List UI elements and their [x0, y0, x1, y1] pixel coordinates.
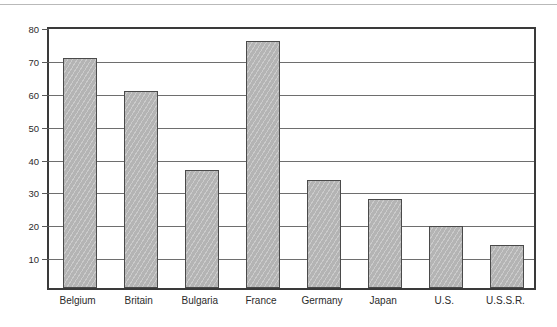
bar-germany[interactable]: [307, 180, 341, 288]
y-axis-tick: [42, 259, 49, 260]
y-axis-tick-label: 60: [28, 89, 39, 100]
y-axis-tick-label: 30: [28, 188, 39, 199]
y-axis-tick: [42, 226, 49, 227]
x-axis-label-belgium: Belgium: [59, 295, 95, 306]
y-axis-tick: [42, 128, 49, 129]
plot-area: 1020304050607080: [47, 27, 536, 290]
x-axis-label-bulgaria: Bulgaria: [181, 295, 218, 306]
y-axis-tick-label: 20: [28, 221, 39, 232]
bar-u-s-s-r[interactable]: [490, 245, 524, 288]
y-axis-tick-label: 50: [28, 122, 39, 133]
x-axis-label-u-s: U.S.: [435, 295, 454, 306]
bar-france[interactable]: [246, 41, 280, 288]
gridline: [49, 95, 534, 96]
bar-chart-figure: Percent 1020304050607080 BelgiumBritainB…: [0, 0, 557, 327]
page-top-rule: [0, 4, 557, 5]
bar-britain[interactable]: [124, 91, 158, 288]
y-axis-tick-label: 80: [28, 24, 39, 35]
x-axis-label-japan: Japan: [370, 295, 397, 306]
bar-japan[interactable]: [368, 199, 402, 288]
gridline: [49, 193, 534, 194]
x-axis-label-britain: Britain: [125, 295, 153, 306]
y-axis-tick: [42, 95, 49, 96]
x-axis-label-u-s-s-r: U.S.S.R.: [486, 295, 525, 306]
y-axis-tick: [42, 161, 49, 162]
y-axis-tick-label: 10: [28, 254, 39, 265]
gridline: [49, 128, 534, 129]
bar-u-s[interactable]: [429, 226, 463, 288]
gridline: [49, 161, 534, 162]
y-axis-tick: [42, 193, 49, 194]
y-axis-tick: [42, 29, 49, 30]
y-axis-tick: [42, 62, 49, 63]
y-axis-tick-label: 40: [28, 155, 39, 166]
bar-bulgaria[interactable]: [185, 170, 219, 288]
x-axis-label-france: France: [245, 295, 276, 306]
bar-belgium[interactable]: [63, 58, 97, 288]
y-axis-tick-label: 70: [28, 56, 39, 67]
gridline: [49, 62, 534, 63]
x-axis-label-germany: Germany: [302, 295, 343, 306]
